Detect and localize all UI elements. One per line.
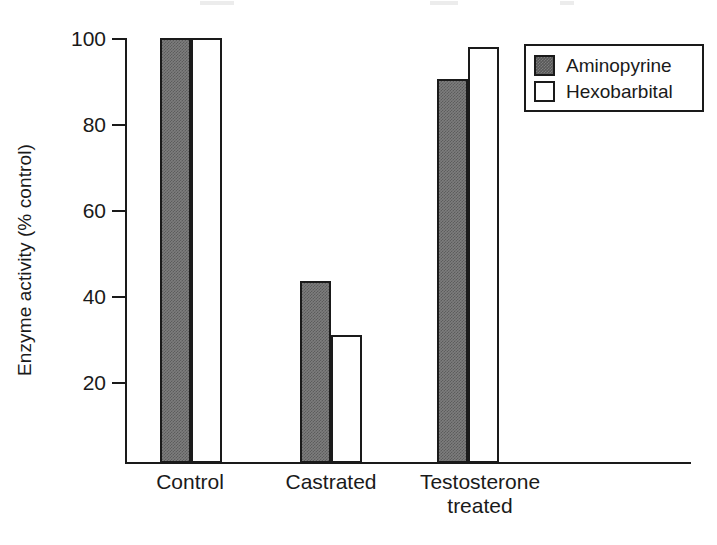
legend-item-hexobarbital[interactable]: Hexobarbital <box>534 78 694 104</box>
y-tick-20 <box>112 382 125 384</box>
x-category-label-castrated: Castrated <box>258 470 404 494</box>
y-axis-line <box>125 38 127 464</box>
scan-artifact <box>200 1 234 5</box>
y-tick-label-20: 20 <box>44 372 106 393</box>
y-axis-title-text: Enzyme activity (% control) <box>14 110 36 410</box>
bar-castrated-hexobarbital[interactable] <box>331 335 362 463</box>
y-tick-60 <box>112 210 125 212</box>
legend: Aminopyrine Hexobarbital <box>524 44 704 112</box>
y-tick-100 <box>112 38 125 40</box>
bar-castrated-aminopyrine[interactable] <box>300 281 331 463</box>
scan-artifact <box>560 1 574 5</box>
y-tick-40 <box>112 296 125 298</box>
x-category-label-testosterone: Testosterone treated <box>388 470 572 518</box>
bar-testosterone-hexobarbital[interactable] <box>468 47 499 463</box>
legend-label-aminopyrine: Aminopyrine <box>566 56 672 75</box>
legend-label-hexobarbital: Hexobarbital <box>566 82 673 101</box>
y-axis-title: Enzyme activity (% control) <box>14 110 36 410</box>
bar-control-hexobarbital[interactable] <box>191 38 222 463</box>
y-tick-label-100: 100 <box>44 28 106 49</box>
bar-testosterone-aminopyrine[interactable] <box>437 79 468 463</box>
bar-chart-figure: Enzyme activity (% control) 100 80 60 40… <box>0 0 717 545</box>
legend-item-aminopyrine[interactable]: Aminopyrine <box>534 52 694 78</box>
x-category-label-control: Control <box>120 470 260 494</box>
legend-swatch-filled-icon <box>534 55 555 76</box>
bar-control-aminopyrine[interactable] <box>160 38 191 463</box>
y-tick-80 <box>112 124 125 126</box>
scan-artifact <box>430 1 458 5</box>
y-tick-label-80: 80 <box>44 114 106 135</box>
y-tick-label-40: 40 <box>44 286 106 307</box>
y-tick-label-60: 60 <box>44 200 106 221</box>
legend-swatch-open-icon <box>534 81 555 102</box>
